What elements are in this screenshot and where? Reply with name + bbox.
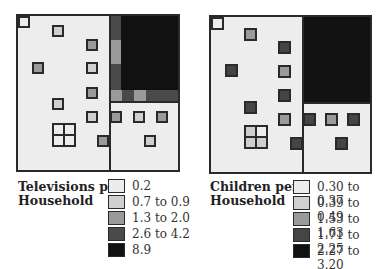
tv-legend-swatch <box>108 211 125 225</box>
children-block <box>278 65 291 78</box>
tv-block <box>86 39 98 51</box>
tv-block <box>52 98 64 110</box>
tv-divider-horizontal <box>109 101 178 103</box>
tv-legend-swatch <box>108 195 125 209</box>
tv-block <box>18 16 30 28</box>
children-block-grid <box>255 136 268 149</box>
tv-legend-label: 8.9 <box>132 243 151 257</box>
children-block <box>244 101 257 114</box>
children-legend-swatch <box>293 196 310 210</box>
children-block <box>225 64 238 77</box>
children-map <box>209 15 372 174</box>
tv-legend-swatch <box>108 227 125 241</box>
tv-legend-title: Televisions per Household <box>18 180 122 208</box>
tv-block <box>144 135 156 147</box>
children-block <box>278 41 291 54</box>
tv-legend-label: 0.7 to 0.9 <box>132 195 190 209</box>
children-region-high <box>303 17 370 103</box>
tv-block <box>133 111 145 123</box>
children-block <box>278 113 291 126</box>
tv-block-grid <box>63 134 76 147</box>
tv-map <box>16 14 180 172</box>
children-legend-swatch <box>293 228 310 242</box>
children-block <box>211 17 224 30</box>
children-legend-label: 2.27 to 3.20 <box>317 244 386 269</box>
tv-strip-cell <box>110 64 121 90</box>
tv-block <box>97 135 109 147</box>
children-block <box>303 113 316 126</box>
children-legend-swatch <box>293 212 310 226</box>
tv-legend-label: 1.3 to 2.0 <box>132 211 190 225</box>
tv-legend-swatch <box>108 179 125 193</box>
children-legend-swatch <box>293 244 310 258</box>
tv-legend-label: 2.6 to 4.2 <box>132 227 190 241</box>
tv-block <box>86 87 98 99</box>
children-block <box>325 113 338 126</box>
tv-block <box>156 111 168 123</box>
tv-strip-cell <box>110 16 121 40</box>
children-block <box>290 137 303 150</box>
tv-legend-swatch <box>108 243 125 257</box>
tv-block <box>86 62 98 74</box>
children-legend-title: Children per Household <box>210 180 299 208</box>
children-block <box>278 89 291 102</box>
children-block <box>244 28 257 41</box>
tv-region-high <box>121 16 178 90</box>
children-block <box>347 113 360 126</box>
children-block <box>335 137 348 150</box>
tv-block <box>52 25 64 37</box>
children-divider-horizontal <box>302 102 370 104</box>
tv-divider-vertical <box>109 16 111 170</box>
tv-legend-label: 0.2 <box>132 179 151 193</box>
tv-strip-cell <box>110 40 121 64</box>
tv-block <box>32 62 44 74</box>
children-legend-swatch <box>293 180 310 194</box>
tv-block <box>86 111 98 123</box>
tv-block <box>110 111 122 123</box>
